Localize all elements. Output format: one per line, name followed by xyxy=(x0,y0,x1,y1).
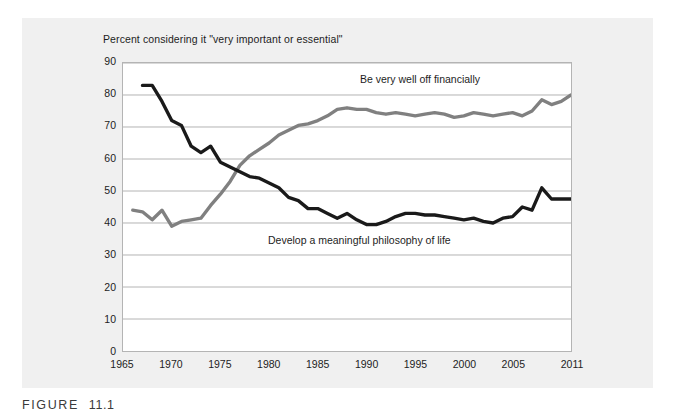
y-axis-tick-label: 50 xyxy=(90,184,116,196)
chart-title: Percent considering it "very important o… xyxy=(103,33,343,45)
y-axis-tick-label: 90 xyxy=(90,55,116,67)
y-axis-tick-label: 60 xyxy=(90,152,116,164)
x-axis-tick-label: 1965 xyxy=(99,358,145,370)
x-axis-tick-label: 1985 xyxy=(295,358,341,370)
figure-caption: FIGURE11.1 xyxy=(22,398,115,412)
series-label-be-very-well-off-financially: Be very well off financially xyxy=(360,73,480,85)
y-axis-tick-label: 80 xyxy=(90,87,116,99)
series-lines xyxy=(123,63,571,351)
x-axis-tick-label: 1990 xyxy=(344,358,390,370)
x-axis-tick-label: 1975 xyxy=(197,358,243,370)
y-axis-tick-label: 0 xyxy=(90,345,116,357)
figure-page: Percent considering it "very important o… xyxy=(0,0,675,412)
plot-area xyxy=(122,62,572,352)
x-axis-tick-label: 2011 xyxy=(549,358,595,370)
y-axis-tick-label: 30 xyxy=(90,248,116,260)
x-axis-tick-label: 2000 xyxy=(441,358,487,370)
x-axis-tick-label: 1980 xyxy=(246,358,292,370)
y-axis-tick-label: 70 xyxy=(90,119,116,131)
figure-caption-number: 11.1 xyxy=(89,398,115,412)
figure-caption-label: FIGURE xyxy=(22,398,79,412)
x-axis-tick-label: 1970 xyxy=(148,358,194,370)
x-axis-tick-label: 1995 xyxy=(392,358,438,370)
y-axis-tick-label: 40 xyxy=(90,216,116,228)
x-axis-tick-label: 2005 xyxy=(490,358,536,370)
y-axis-tick-label: 20 xyxy=(90,281,116,293)
series-label-develop-a-meaningful-philosophy-of-life: Develop a meaningful philosophy of life xyxy=(268,234,451,246)
y-axis-tick-label: 10 xyxy=(90,313,116,325)
